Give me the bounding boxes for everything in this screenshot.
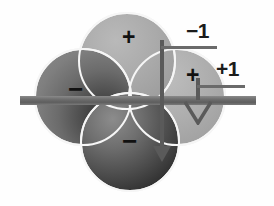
axis-label-plus-one: +1	[216, 58, 239, 79]
leader-line-minus-one	[161, 46, 217, 49]
horizontal-plane-bar	[20, 96, 256, 105]
axis-label-minus-one: −1	[186, 20, 209, 41]
lobe-sign-bottom: −	[122, 128, 137, 154]
lobe-sign-top: +	[122, 26, 135, 49]
lobe-sign-right: +	[186, 64, 199, 87]
lobe-sign-left: −	[68, 76, 83, 102]
orbital-diagram: −1 +1 + + − −	[0, 0, 274, 206]
vertical-axis-arrowhead-icon	[153, 146, 171, 162]
secondary-down-arrow-icon	[184, 101, 212, 125]
vertical-axis-line	[160, 40, 164, 156]
leader-line-plus-one	[197, 85, 245, 88]
